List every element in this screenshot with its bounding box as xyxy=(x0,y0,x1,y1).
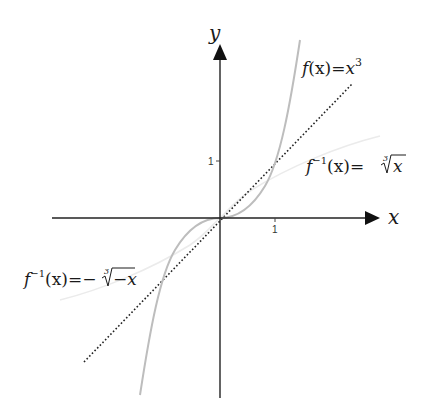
y-axis-label: y xyxy=(208,21,221,45)
identity-line xyxy=(84,84,352,362)
x-axis-arrow-icon xyxy=(365,211,380,225)
function-inverse-diagram: x y 1 1 f(x)=x3 f−1(x)= 3 x f−1(x)=− 3 −… xyxy=(0,0,426,410)
y-tick-label: 1 xyxy=(208,156,214,167)
label-inverse-negative: f−1(x)=− 3 −x xyxy=(22,267,137,289)
label-cube-function: f(x)=x3 xyxy=(300,56,362,78)
root-index: 3 xyxy=(383,154,388,163)
svg-text:f−1(x)=: f−1(x)= xyxy=(304,155,364,176)
svg-text:−x: −x xyxy=(113,269,137,289)
x-tick-label: 1 xyxy=(272,224,278,235)
svg-text:f(x)=x3: f(x)=x3 xyxy=(300,56,362,78)
svg-text:x: x xyxy=(393,156,403,176)
label-inverse-positive: f−1(x)= 3 x xyxy=(304,154,406,176)
root-index: 3 xyxy=(104,267,109,276)
svg-text:f−1(x)=−: f−1(x)=− xyxy=(22,268,96,289)
x-axis-label: x xyxy=(388,205,399,229)
y-axis-arrow-icon xyxy=(213,44,227,60)
